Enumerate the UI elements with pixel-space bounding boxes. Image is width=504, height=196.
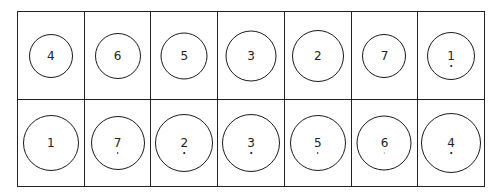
circle-number: 7 bbox=[381, 49, 389, 63]
circle: 5 bbox=[290, 115, 346, 171]
circle-number: 7 bbox=[114, 136, 122, 150]
grid-row-bottom: 1 7 2 3 5 6 4 bbox=[18, 99, 484, 186]
grid-cell: 6 bbox=[352, 99, 419, 186]
circle: 1 bbox=[427, 32, 475, 80]
circle-number: 6 bbox=[381, 136, 389, 150]
circle-number: 3 bbox=[247, 136, 255, 150]
circle: 4 bbox=[421, 113, 481, 173]
grid-cell: 7 bbox=[352, 12, 419, 99]
grid-cell: 7 bbox=[85, 99, 152, 186]
circle: 6 bbox=[357, 115, 412, 170]
circle-number: 3 bbox=[247, 49, 255, 63]
circle-number: 1 bbox=[47, 136, 55, 150]
grid-cell: 1 bbox=[418, 12, 484, 99]
circle: 5 bbox=[161, 32, 208, 79]
grid-cell: 2 bbox=[151, 99, 218, 186]
grid-cell: 1 bbox=[18, 99, 85, 186]
circle: 6 bbox=[95, 33, 141, 79]
grid-row-top: 4 6 5 3 2 7 1 bbox=[18, 12, 484, 100]
circle: 1 bbox=[23, 115, 79, 171]
circle-number: 6 bbox=[114, 49, 122, 63]
grid-cell: 3 bbox=[218, 99, 285, 186]
circle-number: 4 bbox=[447, 136, 455, 150]
circle: 3 bbox=[226, 30, 277, 81]
grid-cell: 6 bbox=[85, 12, 152, 99]
circle-number: 4 bbox=[47, 49, 55, 63]
circle: 2 bbox=[155, 114, 213, 172]
circle: 3 bbox=[222, 114, 280, 172]
circle-number: 5 bbox=[314, 136, 322, 150]
grid-cell: 5 bbox=[151, 12, 218, 99]
circle-number: 2 bbox=[314, 49, 322, 63]
grid-cell: 5 bbox=[285, 99, 352, 186]
circle: 4 bbox=[29, 34, 73, 78]
circle: 7 bbox=[362, 34, 406, 78]
circle: 7 bbox=[91, 116, 145, 170]
circle: 2 bbox=[292, 30, 344, 82]
circle-number: 1 bbox=[447, 49, 455, 63]
circle-number: 5 bbox=[180, 49, 188, 63]
number-grid: 4 6 5 3 2 7 1 1 7 2 3 5 6 4 bbox=[17, 11, 485, 187]
grid-cell: 4 bbox=[418, 99, 484, 186]
grid-cell: 2 bbox=[285, 12, 352, 99]
grid-cell: 4 bbox=[18, 12, 85, 99]
grid-cell: 3 bbox=[218, 12, 285, 99]
circle-number: 2 bbox=[180, 136, 188, 150]
